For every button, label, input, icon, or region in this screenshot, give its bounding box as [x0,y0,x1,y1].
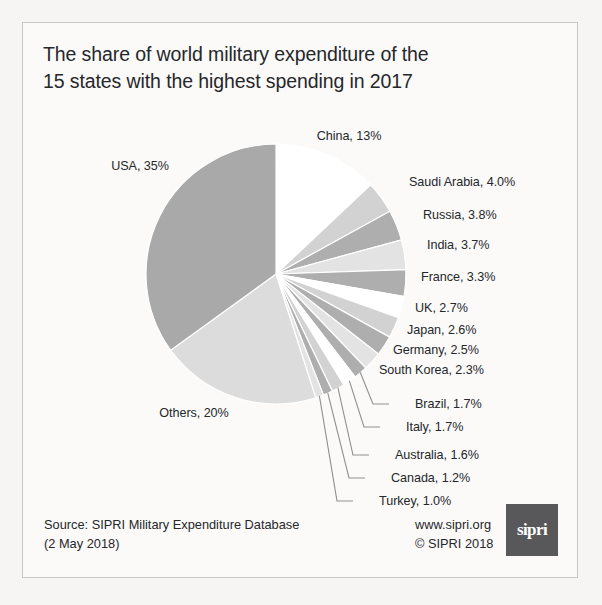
pie-label-uk: UK, 2.7% [415,301,468,315]
sipri-logo-text: sipri [506,504,558,556]
pie-label-russia: Russia, 3.8% [423,208,497,222]
pie-label-usa: USA, 35% [111,159,169,173]
pie-label-saudi-arabia: Saudi Arabia, 4.0% [409,175,515,189]
leader-line-australia [338,388,369,455]
pie-chart-plot [23,23,578,578]
leader-line-canada [328,393,365,478]
chart-footer: Source: SIPRI Military Expenditure Datab… [23,497,578,578]
website-link[interactable]: www.sipri.org [415,515,493,534]
pie-label-australia: Australia, 1.6% [395,448,479,462]
pie-label-china: China, 13% [317,129,382,143]
pie-label-brazil: Brazil, 1.7% [415,397,482,411]
copyright-text: © SIPRI 2018 [415,534,493,553]
pie-label-germany: Germany, 2.5% [393,343,479,357]
pie-slice-group [146,144,406,404]
pie-label-others: Others, 20% [159,406,228,420]
sipri-logo: sipri [506,504,558,556]
pie-label-japan: Japan, 2.6% [407,323,476,337]
website-and-copyright: www.sipri.org © SIPRI 2018 [415,515,493,553]
source-line-2: (2 May 2018) [44,534,299,553]
chart-figure: The share of world military expenditure … [22,22,578,578]
source-line-1: Source: SIPRI Military Expenditure Datab… [44,515,299,534]
source-note: Source: SIPRI Military Expenditure Datab… [44,515,299,553]
pie-label-india: India, 3.7% [427,238,489,252]
pie-label-south-korea: South Korea, 2.3% [379,363,484,377]
pie-label-france: France, 3.3% [421,270,495,284]
leader-line-turkey [319,396,353,501]
pie-label-italy: Italy, 1.7% [406,420,463,434]
pie-label-canada: Canada, 1.2% [391,471,470,485]
